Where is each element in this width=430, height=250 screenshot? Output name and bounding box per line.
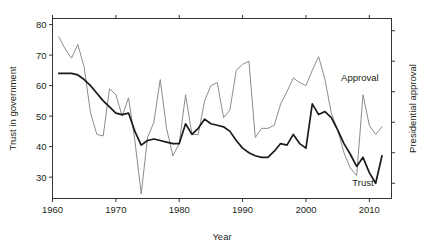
x-axis-title: Year xyxy=(212,231,231,242)
x-tick-label: 1960 xyxy=(42,204,63,215)
y-tick-label: 60 xyxy=(36,80,47,91)
left-axis-ticks xyxy=(49,25,53,178)
y-axis-title-right: Presidential approval xyxy=(407,64,418,153)
bottom-axis-ticks xyxy=(53,199,370,203)
series-label-trust: Trust xyxy=(352,177,374,188)
series-line-approval xyxy=(59,37,382,194)
x-tick-label: 1990 xyxy=(232,204,253,215)
y-tick-label: 70 xyxy=(36,50,47,61)
y-axis-title-left: Trust in government xyxy=(7,66,18,150)
right-axis-ticks xyxy=(392,31,396,184)
series-label-approval: Approval xyxy=(341,72,379,83)
x-tick-label: 2010 xyxy=(359,204,380,215)
line-chart: 304050607080 196019701980199020002010 Ap… xyxy=(0,0,430,250)
x-tick-label: 1970 xyxy=(105,204,126,215)
y-tick-label: 30 xyxy=(36,172,47,183)
x-tick-label: 2000 xyxy=(295,204,316,215)
y-tick-label: 50 xyxy=(36,111,47,122)
x-tick-label: 1980 xyxy=(169,204,190,215)
bottom-axis-tick-labels: 196019701980199020002010 xyxy=(42,204,380,215)
left-axis-tick-labels: 304050607080 xyxy=(36,19,47,183)
series-line-trust xyxy=(59,73,382,183)
top-axis-ticks xyxy=(53,15,370,19)
y-tick-label: 40 xyxy=(36,141,47,152)
y-tick-label: 80 xyxy=(36,19,47,30)
chart-figure: 304050607080 196019701980199020002010 Ap… xyxy=(0,0,430,250)
